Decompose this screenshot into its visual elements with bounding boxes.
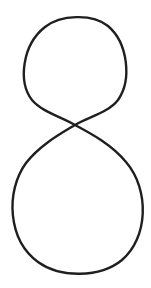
figure-eight-stroke (12, 17, 142, 274)
figure-eight-drawing (0, 0, 151, 288)
